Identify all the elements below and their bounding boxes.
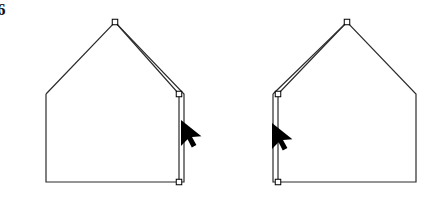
vector-illustration [0, 0, 445, 206]
arrow-cursor-icon-right [272, 123, 292, 150]
figure-canvas: 6 [0, 0, 445, 206]
vertex-handle-bottom-left-right[interactable] [275, 179, 281, 185]
vertex-handle-bottom-right-left[interactable] [176, 179, 182, 185]
vertex-handle-left-eave-right[interactable] [275, 91, 281, 97]
right-house-outline[interactable] [273, 22, 416, 182]
right-house-group[interactable] [272, 19, 416, 185]
vertex-handle-apex-right[interactable] [344, 19, 350, 25]
vertex-handle-right-eave-left[interactable] [176, 91, 182, 97]
left-house-outline[interactable] [46, 22, 184, 182]
vertex-handle-apex-left[interactable] [112, 19, 118, 25]
left-house-group[interactable] [46, 19, 201, 185]
right-house-dragged-edge[interactable] [278, 22, 347, 182]
left-house-dragged-edge[interactable] [115, 22, 179, 182]
